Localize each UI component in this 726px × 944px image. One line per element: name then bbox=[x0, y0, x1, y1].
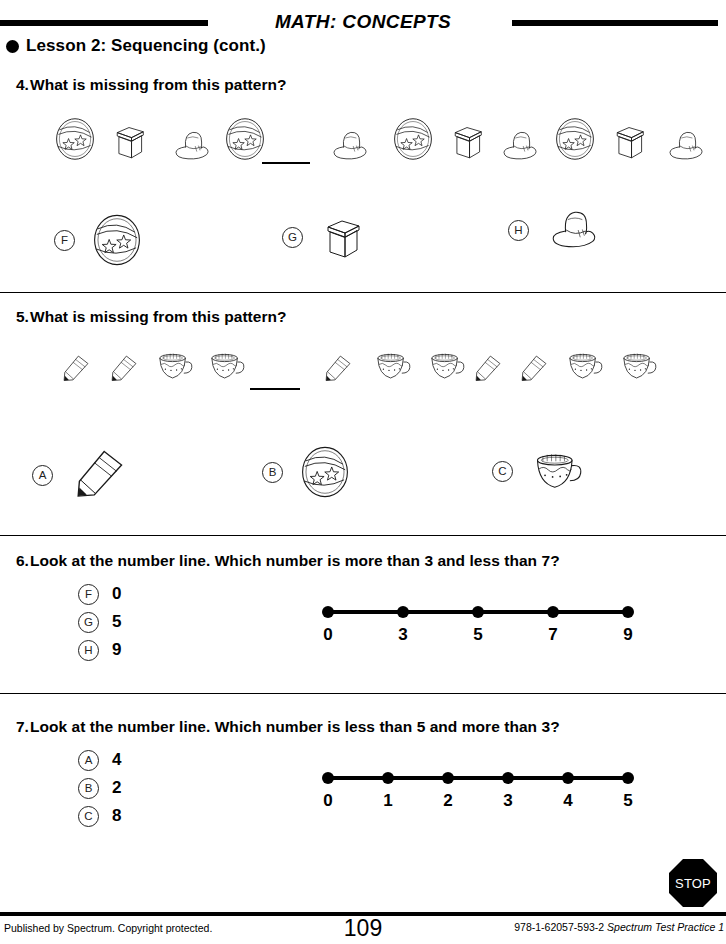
choice-bubble-g[interactable]: G bbox=[78, 612, 99, 633]
question-5: 5. What is missing from this pattern? AB… bbox=[0, 308, 726, 514]
choice-bubble-f[interactable]: F bbox=[78, 584, 99, 605]
question-6-prompt: Look at the number line. Which number is… bbox=[30, 552, 560, 570]
choice-a[interactable]: A bbox=[32, 444, 129, 506]
question-6-number-line: 03579 bbox=[318, 600, 638, 646]
worksheet-page: MATH: CONCEPTS Lesson 2: Sequencing (con… bbox=[0, 0, 726, 944]
choice-bubble-h[interactable]: H bbox=[78, 640, 99, 661]
choice-bubble-h[interactable]: H bbox=[508, 220, 529, 241]
ball-icon bbox=[52, 116, 98, 162]
pattern-item-cup bbox=[204, 346, 250, 390]
question-7: 7. Look at the number line. Which number… bbox=[0, 718, 726, 736]
choice-value-a: 4 bbox=[112, 750, 121, 770]
pattern-item-pencil bbox=[516, 352, 550, 390]
footer-isbn: 978-1-62057-593-2 bbox=[514, 921, 604, 933]
choice-bubble-a[interactable]: A bbox=[32, 465, 53, 486]
footer-book-title: Spectrum Test Practice 1 bbox=[607, 921, 724, 933]
choice-c[interactable]: C8 bbox=[78, 802, 121, 830]
choice-a[interactable]: A4 bbox=[78, 746, 121, 774]
pattern-item-box bbox=[108, 118, 150, 168]
choice-h[interactable]: H bbox=[508, 204, 605, 256]
choice-f[interactable]: F0 bbox=[78, 580, 121, 608]
question-7-number: 7. bbox=[0, 718, 30, 736]
pattern-item-box bbox=[608, 118, 650, 168]
hat-icon bbox=[172, 126, 212, 166]
choice-g[interactable]: G bbox=[282, 210, 367, 264]
choice-b[interactable]: B bbox=[262, 444, 353, 500]
pattern-item-hat bbox=[172, 126, 212, 170]
pattern-item-hat bbox=[330, 126, 370, 170]
lesson-title: Lesson 2: Sequencing (cont.) bbox=[26, 36, 266, 56]
question-5-choices: ABC bbox=[0, 442, 726, 514]
section-rule-1 bbox=[0, 292, 726, 293]
choice-bubble-c[interactable]: C bbox=[78, 806, 99, 827]
question-7-options: A4B2C8 bbox=[78, 746, 121, 830]
choice-b[interactable]: B2 bbox=[78, 774, 121, 802]
choice-bubble-g[interactable]: G bbox=[282, 227, 303, 248]
choice-value-g: 5 bbox=[112, 612, 121, 632]
pencil-icon bbox=[67, 444, 129, 506]
svg-text:0: 0 bbox=[323, 625, 332, 644]
pencil-icon bbox=[470, 352, 504, 386]
ball-icon bbox=[89, 212, 145, 268]
pattern-item-cup bbox=[424, 346, 470, 390]
box-icon bbox=[608, 118, 650, 164]
question-4-number: 4. bbox=[0, 76, 30, 94]
cup-icon bbox=[527, 444, 589, 498]
section-rule-2 bbox=[0, 535, 726, 536]
choice-bubble-b[interactable]: B bbox=[262, 462, 283, 483]
choice-bubble-a[interactable]: A bbox=[78, 750, 99, 771]
choice-bubble-f[interactable]: F bbox=[54, 230, 75, 251]
question-6-options: F0G5H9 bbox=[78, 580, 121, 664]
question-5-pattern-strip bbox=[0, 346, 726, 408]
svg-text:1: 1 bbox=[383, 791, 392, 810]
svg-text:0: 0 bbox=[323, 791, 332, 810]
question-4-pattern-strip bbox=[0, 116, 726, 178]
svg-text:2: 2 bbox=[443, 791, 452, 810]
pencil-icon bbox=[106, 352, 140, 386]
stop-label: STOP bbox=[668, 858, 718, 908]
ball-icon bbox=[297, 444, 353, 500]
pattern-item-cup bbox=[616, 346, 662, 390]
svg-text:4: 4 bbox=[563, 791, 573, 810]
pattern-item-cup bbox=[370, 346, 416, 390]
choice-c[interactable]: C bbox=[492, 444, 589, 498]
choice-value-c: 8 bbox=[112, 806, 121, 826]
choice-bubble-c[interactable]: C bbox=[492, 461, 513, 482]
pattern-blank bbox=[262, 162, 310, 164]
ball-icon bbox=[222, 116, 268, 162]
svg-text:7: 7 bbox=[548, 625, 557, 644]
cup-icon bbox=[370, 346, 416, 386]
choice-f[interactable]: F bbox=[54, 212, 145, 268]
question-7-number-line: 012345 bbox=[318, 766, 638, 812]
pattern-item-cup bbox=[152, 346, 198, 390]
pattern-item-pencil bbox=[320, 352, 354, 390]
question-6-heading: 6. Look at the number line. Which number… bbox=[0, 552, 726, 570]
choice-bubble-b[interactable]: B bbox=[78, 778, 99, 799]
pattern-item-pencil bbox=[470, 352, 504, 390]
cup-icon bbox=[562, 346, 608, 386]
question-5-prompt: What is missing from this pattern? bbox=[30, 308, 287, 326]
svg-text:3: 3 bbox=[398, 625, 407, 644]
cup-icon bbox=[616, 346, 662, 386]
pattern-item-ball bbox=[552, 116, 598, 166]
svg-text:5: 5 bbox=[623, 791, 632, 810]
pattern-item-pencil bbox=[58, 352, 92, 390]
pattern-item-hat bbox=[666, 126, 706, 170]
cup-icon bbox=[152, 346, 198, 386]
question-6-number: 6. bbox=[0, 552, 30, 570]
ball-icon bbox=[552, 116, 598, 162]
cup-icon bbox=[424, 346, 470, 386]
pattern-item-pencil bbox=[106, 352, 140, 390]
box-icon bbox=[108, 118, 150, 164]
pattern-item-hat bbox=[500, 126, 540, 170]
pencil-icon bbox=[58, 352, 92, 386]
filled-circle-bullet-icon bbox=[6, 40, 19, 53]
question-4: 4. What is missing from this pattern? FG… bbox=[0, 76, 726, 276]
hat-icon bbox=[500, 126, 540, 166]
choice-h[interactable]: H9 bbox=[78, 636, 121, 664]
svg-text:3: 3 bbox=[503, 791, 512, 810]
hat-icon bbox=[666, 126, 706, 166]
question-7-heading: 7. Look at the number line. Which number… bbox=[0, 718, 726, 736]
choice-g[interactable]: G5 bbox=[78, 608, 121, 636]
question-6: 6. Look at the number line. Which number… bbox=[0, 552, 726, 570]
